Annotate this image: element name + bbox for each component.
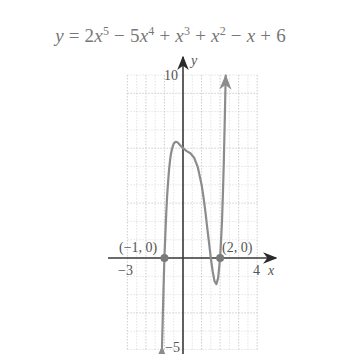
y-max-tick-label: 10 [164,68,178,83]
x-axis-label: x [267,263,275,278]
y-axis-label: y [189,53,198,68]
x-intercept-point [216,254,224,262]
grid-lines [127,75,257,350]
point-label: (−1, 0) [119,240,158,256]
x-max-tick-label: 4 [253,263,260,278]
point-label: (2, 0) [222,240,253,256]
x-min-tick-label: −3 [118,263,133,278]
polynomial-curve [162,76,226,347]
x-intercept-point [160,254,168,262]
plot-area: (−1, 0) (2, 0) −3 4 x 10 y −5 [0,0,341,354]
y-min-tick-label: −5 [165,340,180,354]
